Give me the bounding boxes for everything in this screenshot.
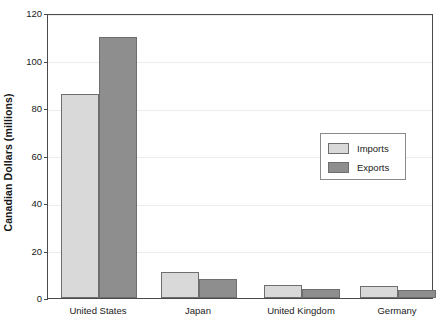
- bar-japan-imports: [161, 272, 199, 298]
- legend-swatch-imports-icon: [328, 143, 349, 154]
- bar-united-kingdom-imports: [264, 285, 302, 298]
- x-axis-label-united-states: United States: [69, 305, 126, 316]
- bar-germany-exports: [398, 290, 436, 298]
- legend-label-imports: Imports: [357, 143, 389, 154]
- legend-item-imports: Imports: [328, 141, 389, 155]
- y-axis-tick-label: 60: [0, 151, 42, 163]
- legend-item-exports: Exports: [328, 160, 389, 174]
- bar-chart: Canadian Dollars (millions) 020406080100…: [0, 0, 444, 325]
- x-axis-label-germany: Germany: [377, 305, 416, 316]
- y-axis-title: Canadian Dollars (millions): [0, 0, 16, 325]
- bar-united-kingdom-exports: [302, 289, 340, 299]
- y-axis-tick-label: 40: [0, 198, 42, 210]
- y-axis-tick-label: 0: [0, 293, 42, 305]
- y-axis-tick-label: 80: [0, 103, 42, 115]
- x-axis-label-japan: Japan: [185, 305, 211, 316]
- bar-germany-imports: [360, 286, 398, 298]
- y-axis-tick-label: 20: [0, 246, 42, 258]
- y-axis-tick-label: 100: [0, 56, 42, 68]
- gridline: [48, 15, 432, 16]
- chart-legend: Imports Exports: [320, 133, 406, 180]
- y-axis-tick-label: 120: [0, 8, 42, 20]
- legend-swatch-exports-icon: [328, 162, 349, 173]
- bar-united-states-imports: [61, 94, 99, 298]
- y-axis-tick-mark: [44, 299, 48, 300]
- x-axis-label-united-kingdom: United Kingdom: [267, 305, 335, 316]
- bar-united-states-exports: [99, 37, 137, 298]
- legend-label-exports: Exports: [357, 162, 389, 173]
- bar-japan-exports: [199, 279, 237, 298]
